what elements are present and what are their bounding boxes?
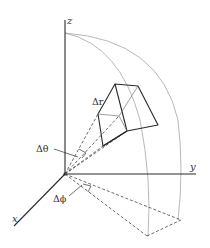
phi-wedge-projection — [65, 174, 181, 236]
z-axis-label: z — [66, 15, 73, 26]
delta-phi-leader — [69, 185, 82, 196]
box-bottom-edge — [103, 131, 127, 146]
delta-theta-leader — [54, 149, 78, 157]
delta-phi-label: Δϕ — [53, 193, 67, 204]
volume-element-box — [98, 84, 158, 146]
coordinate-axes — [14, 20, 196, 226]
meridian-arcs — [65, 33, 181, 236]
theta-angle-arc — [79, 149, 86, 158]
y-axis-label: y — [189, 161, 196, 172]
box-hidden-diagonal — [119, 86, 138, 116]
outer-meridian-arc — [65, 33, 181, 220]
spherical-volume-element-diagram: z y x Δr Δθ Δϕ — [0, 0, 210, 248]
phi-ray-1 — [65, 174, 181, 220]
x-axis-label: x — [12, 213, 18, 224]
box-edge-top-to-inner — [115, 84, 127, 131]
phi-ray-2 — [65, 174, 147, 236]
delta-r-label: Δr — [92, 96, 104, 107]
angle-markers — [79, 149, 91, 192]
theta-wedge-rays — [65, 114, 127, 174]
phi-outer-edge — [147, 220, 181, 236]
delta-theta-label: Δθ — [36, 143, 49, 154]
